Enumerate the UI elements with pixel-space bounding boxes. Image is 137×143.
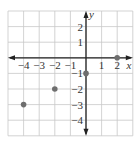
x-tick-label: −3: [33, 59, 45, 71]
y-axis-arrow-down-icon: [84, 129, 89, 136]
y-tick-label: −1: [71, 67, 83, 79]
y-tick-label: −3: [71, 99, 83, 111]
y-tick-label: 2: [78, 21, 84, 33]
x-tick-label: −4: [18, 59, 30, 71]
x-axis-label: x: [126, 59, 132, 71]
y-tick-label: 1: [78, 36, 84, 48]
data-point: [21, 102, 27, 108]
coordinate-plane-chart: −4−3−2−11221−1−2−3−4 x y: [0, 0, 137, 143]
data-point: [114, 55, 120, 61]
y-axis-label: y: [88, 8, 94, 20]
y-tick-label: −2: [71, 83, 83, 95]
x-tick-label: 1: [99, 59, 105, 71]
x-tick-label: 2: [114, 59, 120, 71]
data-point: [52, 86, 58, 92]
x-tick-label: −2: [49, 59, 61, 71]
x-axis-arrow-left-icon: [8, 55, 15, 60]
data-point: [83, 71, 89, 77]
y-tick-label: −4: [71, 114, 83, 126]
y-axis-arrow-up-icon: [84, 11, 89, 18]
